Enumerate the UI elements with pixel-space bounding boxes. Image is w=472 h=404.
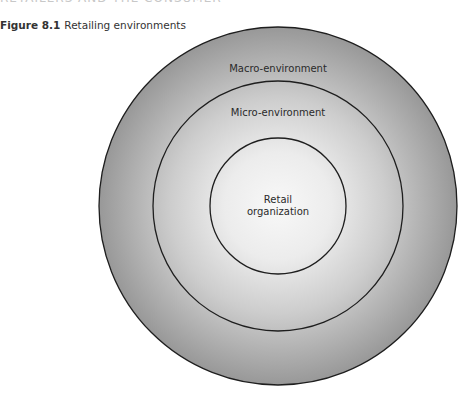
retail-organization-label-line2: organization — [247, 206, 309, 217]
retailing-environments-diagram: Macro-environment Micro-environment Reta… — [0, 0, 472, 404]
macro-environment-label: Macro-environment — [229, 63, 327, 74]
micro-environment-label: Micro-environment — [231, 107, 325, 118]
retail-organization-label-line1: Retail — [264, 194, 292, 205]
